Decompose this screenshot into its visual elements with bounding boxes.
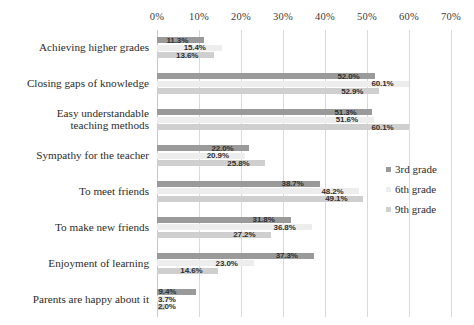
- bar-value-label: 2.0%: [158, 303, 176, 311]
- category-label: To meet friends: [79, 185, 149, 198]
- x-tick-label: 30%: [273, 11, 293, 22]
- category-axis: Achieving higher gradesClosing gaps of k…: [0, 30, 153, 317]
- legend-item-6th-grade[interactable]: 6th grade: [386, 179, 472, 199]
- x-tick-label: 20%: [231, 11, 251, 22]
- bar-2-row-4: [157, 153, 245, 159]
- bar-value-label: 49.1%: [325, 195, 347, 203]
- category-label: Easy understandable teaching methods: [57, 107, 149, 132]
- bar-value-label: 27.2%: [233, 231, 255, 239]
- bar-value-label: 52.9%: [341, 88, 363, 96]
- bar-value-label: 14.6%: [180, 267, 202, 275]
- category-label: Achieving higher grades: [39, 41, 149, 54]
- category-label: Sympathy for the teacher: [36, 149, 149, 162]
- x-tick-label: 50%: [357, 11, 377, 22]
- legend-label: 6th grade: [395, 183, 436, 195]
- x-tick-label: 10%: [189, 11, 209, 22]
- x-tick-label: 60%: [399, 11, 419, 22]
- bar-value-label: 13.6%: [176, 52, 198, 60]
- bar-value-label: 37.3%: [276, 252, 298, 260]
- legend-swatch-icon: [386, 167, 391, 172]
- x-tick-label: 40%: [315, 11, 335, 22]
- category-label: To make new friends: [55, 221, 149, 234]
- legend-label: 3rd grade: [395, 163, 437, 175]
- bar-value-label: 36.8%: [274, 224, 296, 232]
- bar-value-label: 25.8%: [227, 160, 249, 168]
- bar-value-label: 60.1%: [371, 80, 393, 88]
- legend-item-9th-grade[interactable]: 9th grade: [386, 199, 472, 219]
- bar-value-label: 52.0%: [337, 73, 359, 81]
- legend-swatch-icon: [386, 187, 391, 192]
- bar-value-label: 60.1%: [371, 124, 393, 132]
- legend-swatch-icon: [386, 207, 391, 212]
- chart-legend: 3rd grade6th grade9th grade: [386, 159, 472, 219]
- x-tick-label: 70%: [441, 11, 461, 22]
- bar-value-label: 20.9%: [207, 152, 229, 160]
- category-label: Enjoyment of learning: [48, 257, 149, 270]
- x-tick-label: 0%: [150, 11, 164, 22]
- bar-2-row-7: [157, 260, 254, 266]
- bar-value-label: 23.0%: [216, 260, 238, 268]
- x-axis: 0%10%20%30%40%50%60%70%: [0, 0, 474, 30]
- bar-value-label: 31.8%: [253, 216, 275, 224]
- legend-label: 9th grade: [395, 203, 436, 215]
- category-label: Closing gaps of knowledge: [27, 77, 149, 90]
- bar-1-row-4: [157, 145, 249, 151]
- bar-value-label: 38.7%: [282, 180, 304, 188]
- legend-item-3rd-grade[interactable]: 3rd grade: [386, 159, 472, 179]
- category-label: Parents are happy about it: [33, 293, 149, 306]
- bar-value-label: 51.6%: [336, 116, 358, 124]
- bar-chart: 0%10%20%30%40%50%60%70% 11.3%15.4%13.6%5…: [0, 0, 474, 325]
